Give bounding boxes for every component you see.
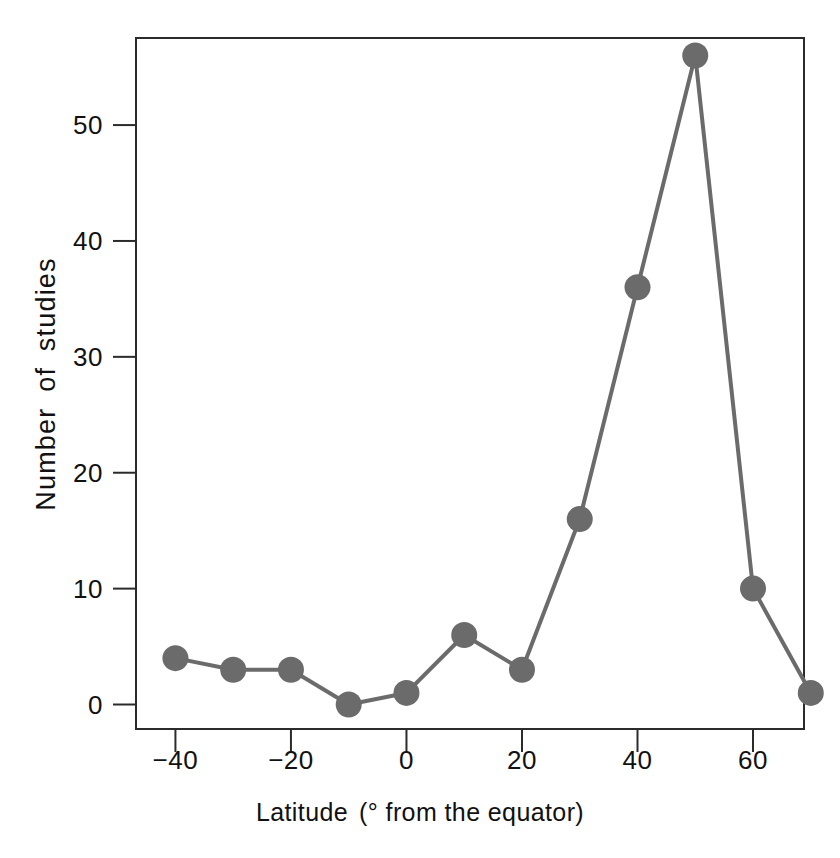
- x-tick-label: −40: [153, 745, 199, 776]
- y-tick-label: 10: [73, 573, 103, 604]
- x-tick-label: 60: [738, 745, 768, 776]
- y-axis-tick-labels: 01020304050: [0, 0, 103, 858]
- x-tick-label: 20: [507, 745, 537, 776]
- chart-figure: Number of studies 01020304050 −40−200204…: [0, 0, 840, 858]
- x-tick-label: −20: [268, 745, 314, 776]
- x-tick-label: 40: [623, 745, 653, 776]
- y-tick-label: 20: [73, 457, 103, 488]
- x-axis-tick-labels: −40−200204060: [0, 745, 840, 785]
- y-axis-ticks: [113, 125, 135, 704]
- x-axis-title-units: (° from the equator): [359, 798, 584, 826]
- x-axis-title-main: Latitude: [256, 798, 348, 826]
- plot-area: [135, 37, 805, 730]
- y-tick-label: 40: [73, 225, 103, 256]
- x-axis-title: Latitude(° from the equator): [0, 798, 840, 827]
- y-tick-label: 50: [73, 110, 103, 141]
- y-tick-label: 0: [88, 689, 103, 720]
- x-tick-label: 0: [399, 745, 414, 776]
- y-tick-label: 30: [73, 341, 103, 372]
